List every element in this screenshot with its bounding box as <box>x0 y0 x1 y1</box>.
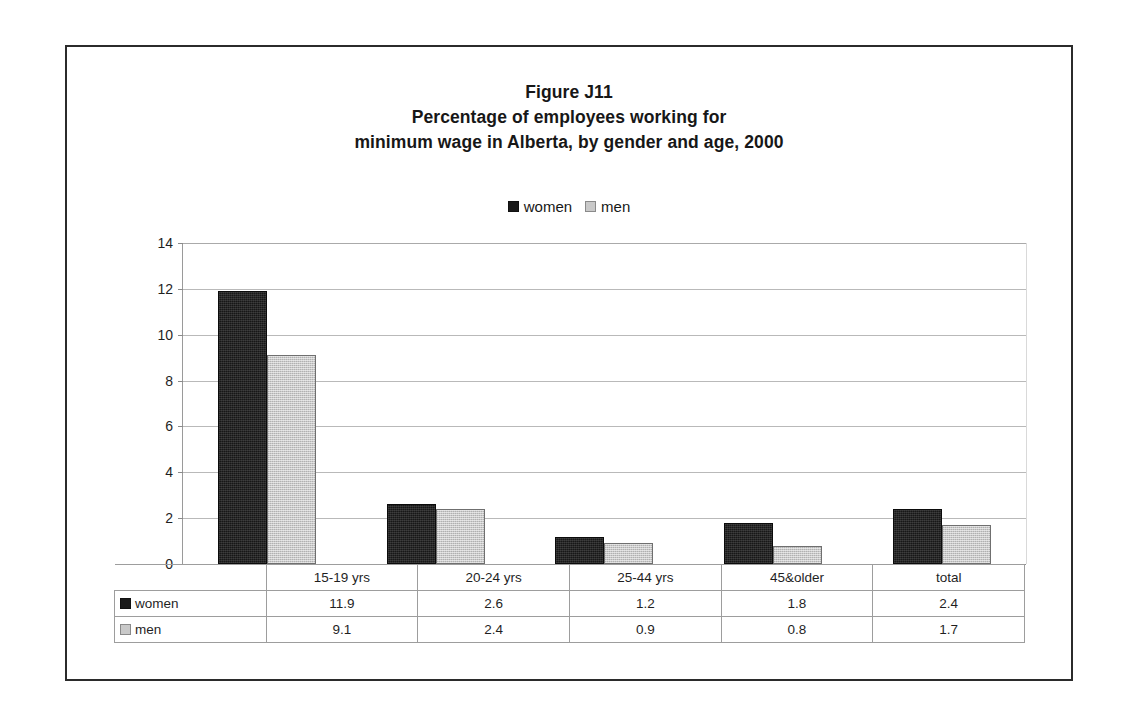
table-cell: 1.8 <box>721 591 873 617</box>
bar-layer <box>183 243 1026 564</box>
table-rowhead-women: women <box>115 591 267 617</box>
table-header-row: 15-19 yrs 20-24 yrs 25-44 yrs 45&older t… <box>115 565 1025 591</box>
y-axis-tick-label: 8 <box>165 373 173 389</box>
table-cell: 2.6 <box>418 591 570 617</box>
bar-men <box>604 543 653 564</box>
bar-pair <box>387 243 485 564</box>
y-axis-tick-label: 2 <box>165 510 173 526</box>
plot-area: 02468101214 <box>182 243 1027 564</box>
bar-group <box>352 243 521 564</box>
bar-women <box>893 509 942 564</box>
table-cell: 9.1 <box>266 617 418 643</box>
table-cell: 1.7 <box>873 617 1025 643</box>
table-cell: 0.9 <box>569 617 721 643</box>
table-cell: 0.8 <box>721 617 873 643</box>
y-axis-tick-label: 14 <box>157 235 173 251</box>
y-axis-tick-label: 4 <box>165 464 173 480</box>
table-rowhead-label: men <box>135 622 161 637</box>
table-col-header: 25-44 yrs <box>569 565 721 591</box>
table-col-header: 15-19 yrs <box>266 565 418 591</box>
bar-women <box>218 291 267 564</box>
bar-group <box>520 243 689 564</box>
y-axis-tick-label: 10 <box>157 327 173 343</box>
bar-women <box>724 523 773 564</box>
table-swatch-men-icon <box>120 624 131 635</box>
bar-men <box>942 525 991 564</box>
bar-men <box>436 509 485 564</box>
figure-frame: Figure J11 Percentage of employees worki… <box>65 45 1073 681</box>
table-rowhead-men: men <box>115 617 267 643</box>
table-row: men 9.1 2.4 0.9 0.8 1.7 <box>115 617 1025 643</box>
table-col-header: 20-24 yrs <box>418 565 570 591</box>
table-corner-blank <box>115 565 267 591</box>
table-cell: 2.4 <box>418 617 570 643</box>
table-cell: 1.2 <box>569 591 721 617</box>
bar-pair <box>218 243 316 564</box>
data-table: 15-19 yrs 20-24 yrs 25-44 yrs 45&older t… <box>114 564 1025 643</box>
bar-men <box>267 355 316 564</box>
table-col-header: 45&older <box>721 565 873 591</box>
table-row: women 11.9 2.6 1.2 1.8 2.4 <box>115 591 1025 617</box>
bar-group <box>689 243 858 564</box>
y-axis-tick-label: 12 <box>157 281 173 297</box>
bar-women <box>555 537 604 565</box>
table-col-header: total <box>873 565 1025 591</box>
table-cell: 2.4 <box>873 591 1025 617</box>
bar-pair <box>555 243 653 564</box>
bar-pair <box>724 243 822 564</box>
bar-pair <box>893 243 991 564</box>
bar-group <box>857 243 1026 564</box>
bar-women <box>387 504 436 564</box>
bar-group <box>183 243 352 564</box>
y-axis-tick-label: 6 <box>165 418 173 434</box>
table-rowhead-label: women <box>135 596 179 611</box>
bar-men <box>773 546 822 564</box>
table-swatch-women-icon <box>120 598 131 609</box>
table-cell: 11.9 <box>266 591 418 617</box>
